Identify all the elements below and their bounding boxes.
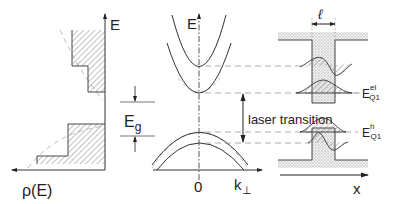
valence-well [278,128,368,168]
diagram-canvas: E ρ(E) Eg E 0 k⊥ laser tra [0,0,393,204]
electron-wavefunction-1 [296,80,352,93]
band-diagram: E ρ(E) Eg E 0 k⊥ laser tra [0,0,393,204]
dos-energy-label: E [110,16,120,33]
dos-valence-steps [37,124,105,164]
dispersion-k-label: k⊥ [234,176,252,196]
well-width-label: ℓ [317,6,323,22]
quantum-well-panel: ℓ x EelQ1 EhQ1 [278,6,382,197]
hole-level-label: EhQ1 [362,122,382,141]
dispersion-panel: E 0 k⊥ [152,14,262,196]
gap-marker: Eg [120,86,155,152]
dos-rho-label: ρ(E) [22,182,52,199]
gap-label: Eg [124,113,141,134]
position-axis-label: x [353,180,361,197]
valence-subband-1 [152,133,248,166]
dos-panel: E ρ(E) [12,14,120,199]
dispersion-energy-label: E [187,15,197,32]
dos-conduction-steps [72,30,105,92]
valence-subband-2 [157,143,244,170]
electron-level-label: EelQ1 [362,83,380,102]
dispersion-origin-label: 0 [194,178,202,195]
